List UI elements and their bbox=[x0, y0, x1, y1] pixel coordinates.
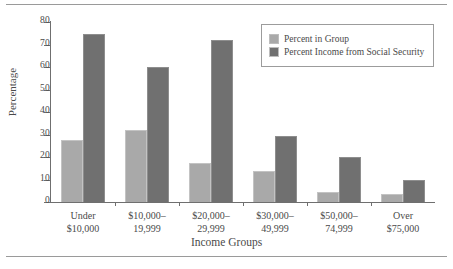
legend-label: Percent in Group bbox=[284, 34, 349, 44]
y-axis-title-text: Percentage bbox=[6, 32, 18, 152]
bar-0 bbox=[317, 192, 339, 202]
legend-label: Percent Income from Social Security bbox=[284, 47, 424, 57]
chart-figure: 01020304050607080 Percentage Under$10,00… bbox=[0, 0, 453, 269]
legend-swatch-icon bbox=[269, 47, 279, 57]
x-axis-tick-mark bbox=[179, 202, 180, 206]
bar-group bbox=[115, 22, 179, 202]
bottom-rule bbox=[6, 256, 447, 257]
y-axis-tick-label: 10 bbox=[12, 173, 50, 183]
x-axis-category-label-line: Over bbox=[358, 209, 448, 222]
x-axis-tick-mark bbox=[371, 202, 372, 206]
x-axis-tick-mark bbox=[243, 202, 244, 206]
bar-0 bbox=[61, 140, 83, 202]
bar-1 bbox=[83, 34, 105, 202]
y-axis-tick-label-wrap: 80 bbox=[0, 22, 50, 23]
bar-1 bbox=[403, 180, 425, 203]
bar-1 bbox=[275, 136, 297, 202]
bar-group-inner bbox=[115, 22, 179, 202]
bar-group-inner bbox=[179, 22, 243, 202]
y-axis-tick-label-wrap: 10 bbox=[0, 180, 50, 181]
bar-0 bbox=[381, 194, 403, 202]
y-axis-tick-label-wrap: 20 bbox=[0, 157, 50, 158]
legend-swatch-icon bbox=[269, 34, 279, 44]
bar-0 bbox=[189, 163, 211, 202]
bar-1 bbox=[339, 157, 361, 202]
bar-0 bbox=[125, 130, 147, 202]
bar-1 bbox=[211, 40, 233, 202]
x-axis-tick-mark bbox=[115, 202, 116, 206]
x-axis-tick-mark bbox=[307, 202, 308, 206]
x-axis-title-text: Income Groups bbox=[0, 236, 453, 248]
legend-item: Percent in Group bbox=[269, 34, 424, 44]
y-axis-tick-label: 0 bbox=[12, 195, 50, 205]
x-axis-category-label-line: $75,000 bbox=[358, 222, 448, 235]
top-rule bbox=[6, 4, 447, 5]
bar-group-inner bbox=[51, 22, 115, 202]
bar-1 bbox=[147, 67, 169, 202]
y-axis-tick-label: 80 bbox=[12, 15, 50, 25]
chart-legend: Percent in GroupPercent Income from Soci… bbox=[261, 24, 434, 67]
bar-group bbox=[51, 22, 115, 202]
x-axis-category-label: Over$75,000 bbox=[358, 209, 448, 235]
y-axis-tick-label-wrap: 0 bbox=[0, 202, 50, 203]
legend-item: Percent Income from Social Security bbox=[269, 47, 424, 57]
bar-0 bbox=[253, 171, 275, 203]
bar-group bbox=[179, 22, 243, 202]
